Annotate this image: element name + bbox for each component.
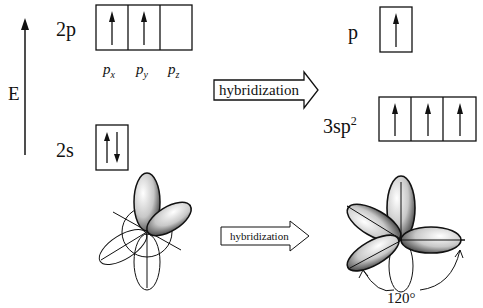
px-label: px	[103, 61, 115, 80]
pz-label: pz	[168, 61, 179, 80]
p-level-label: p	[348, 22, 358, 42]
angle-label: 120°	[387, 290, 416, 307]
electron-up-arrow-py	[141, 11, 147, 45]
2p-orbital-boxes	[96, 5, 192, 50]
py-label: py	[136, 61, 148, 80]
2p-level-label: 2p	[56, 19, 76, 39]
electron-up-arrow-px	[109, 11, 115, 45]
2s-level-label: 2s	[56, 140, 74, 160]
hybridization-label-top: hybridization	[219, 82, 299, 99]
p-orbital-box	[380, 7, 412, 52]
unhybridized-orbitals-illustration	[94, 173, 197, 290]
sp2-orbital-boxes	[379, 97, 476, 141]
sp2-level-label: 3sp2	[323, 115, 357, 136]
sp2-hybrid-orbitals-illustration	[342, 176, 465, 292]
hybridization-label-bottom: hybridization	[230, 230, 289, 242]
2s-orbital-box	[96, 125, 128, 170]
energy-axis-label: E	[8, 84, 20, 103]
energy-axis-arrow	[21, 18, 29, 155]
